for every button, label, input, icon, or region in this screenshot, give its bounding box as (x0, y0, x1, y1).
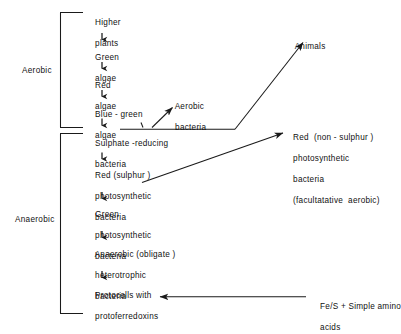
branch-animals: Animals (285, 31, 326, 63)
node-line-1: Higher (95, 18, 121, 27)
node-line-1: Red (sulphur ) (95, 171, 150, 180)
node-line-1: Protocells with (95, 291, 152, 300)
branch-line-2: bacteria (175, 123, 206, 132)
node-line-1: Blue - green (95, 110, 143, 119)
node-line-2: protoferredoxins (95, 312, 158, 321)
aerobic-bracket (61, 13, 83, 128)
anaerobic-bracket (61, 134, 83, 314)
branch-red-non-sulphur-photosynthetic-bacteria: Red (non - sulphur ) photosynthetic bact… (283, 122, 380, 217)
branch-line-2: acids (320, 323, 340, 332)
node-line-1: Green (95, 210, 119, 219)
node-protocells-with-protoferredoxins: Protocells with protoferredoxins (85, 280, 158, 333)
branch-line-1: Animals (295, 42, 326, 51)
branch-fe-s-simple-amino-acids: Fe/S + Simple amino acids (310, 291, 401, 334)
branch-line-1: Red (non - sulphur ) (293, 133, 373, 142)
branch-line-1: Aerobic (175, 102, 205, 111)
node-line-1: Sulphate -reducing (95, 139, 168, 148)
branch-line-4: (facultatative aerobic) (293, 196, 380, 205)
node-line-1: Anaerobic (obligate ) (95, 250, 176, 259)
node-line-1: Green (95, 53, 119, 62)
node-line-2: heterotrophic (95, 271, 146, 280)
branch-line-3: bacteria (293, 175, 324, 184)
group-label-aerobic: Aerobic (22, 66, 52, 75)
branch-line-1: Fe/S + Simple amino (320, 302, 401, 311)
branch-aerobic-bacteria: Aerobic bacteria (165, 91, 206, 144)
group-label-anaerobic: Anaerobic (15, 215, 55, 224)
branch-line-2: photosynthetic (293, 154, 349, 163)
node-line-1: Red (95, 81, 111, 90)
